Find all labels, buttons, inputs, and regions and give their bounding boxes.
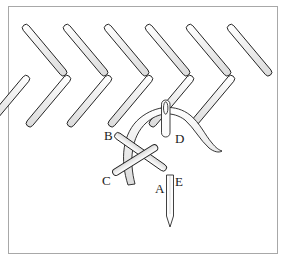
needle-at-e [167, 175, 174, 227]
cross-stitch-illustration [0, 0, 287, 263]
label-d: D [175, 132, 184, 145]
label-a: A [155, 182, 164, 195]
cross-stitch-row [0, 23, 273, 128]
label-e: E [175, 175, 183, 188]
stitch-legs-backslash [21, 23, 273, 77]
stitch-legs-forwardslash [0, 74, 236, 128]
label-b: B [104, 129, 113, 142]
label-c: C [102, 174, 111, 187]
figure-canvas: B D C A E [0, 0, 287, 263]
needle-at-d [162, 100, 171, 137]
